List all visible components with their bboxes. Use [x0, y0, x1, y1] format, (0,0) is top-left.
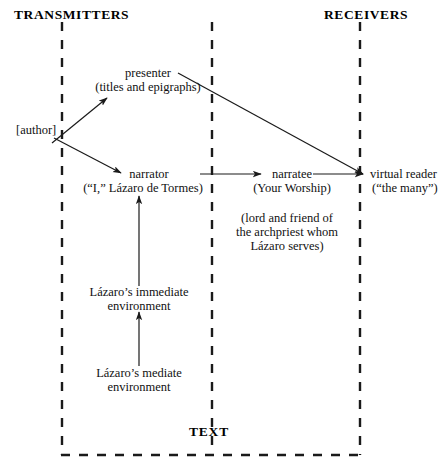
text-frame-label: TEXT	[189, 424, 229, 440]
node-narratee-note-line1: (lord and friend of	[222, 211, 352, 225]
node-presenter-line2: (titles and epigraphs)	[78, 80, 218, 94]
node-narratee-line1: narratee	[245, 167, 339, 181]
node-narratee-note-line2: the archpriest whom	[222, 225, 352, 239]
node-narrator-line1: narrator	[84, 167, 214, 181]
node-presenter-line1: presenter	[78, 66, 218, 80]
node-narrator-line2: (“I,” Lázaro de Tormes)	[72, 181, 214, 195]
header-transmitters: TRANSMITTERS	[14, 7, 129, 23]
node-virtual-reader-line1: virtual reader	[370, 167, 437, 181]
node-mediate-environment-line2: environment	[76, 380, 202, 394]
node-immediate-environment-line2: environment	[74, 299, 204, 313]
node-virtual-reader-line2: (“the many”)	[372, 181, 438, 195]
header-receivers: RECEIVERS	[324, 7, 408, 23]
communication-model-diagram: TRANSMITTERS RECEIVERS [author] presente…	[0, 0, 448, 468]
node-narratee-line2: (Your Worship)	[241, 181, 343, 195]
node-author: [author]	[16, 123, 56, 137]
node-narratee-note-line3: Lázaro serves)	[222, 239, 352, 253]
node-immediate-environment-line1: Lázaro’s immediate	[74, 285, 204, 299]
node-mediate-environment-line1: Lázaro’s mediate	[76, 366, 202, 380]
edge-author-to-presenter	[52, 98, 107, 143]
